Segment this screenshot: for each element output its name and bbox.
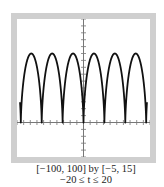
axes [17, 19, 150, 157]
plot-area [17, 19, 150, 157]
chart-svg [17, 19, 150, 157]
window-caption: [−100, 100] by [−5, 15] [4, 163, 164, 174]
parameter-range-text: −20 ≤ t ≤ 20 [60, 174, 112, 185]
parameter-range-caption: −20 ≤ t ≤ 20 [4, 174, 164, 185]
